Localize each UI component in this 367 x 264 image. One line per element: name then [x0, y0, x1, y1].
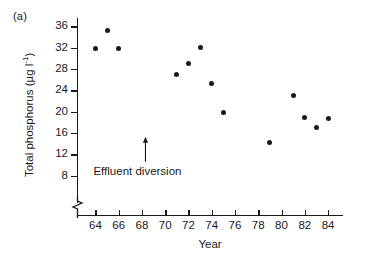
x-axis-tick	[282, 210, 283, 216]
x-axis-tick	[328, 210, 329, 216]
y-axis-tick	[71, 69, 77, 70]
x-axis-tick	[142, 210, 143, 216]
y-axis-tick	[71, 26, 77, 27]
x-axis-tick	[95, 210, 96, 216]
x-axis-title: Year	[78, 238, 342, 250]
x-axis-tick	[305, 210, 306, 216]
y-axis-tick	[71, 112, 77, 113]
y-axis-tick	[71, 90, 77, 91]
y-axis-title: Total phosphorus (µg l-1)	[21, 25, 35, 205]
y-axis-tick	[71, 176, 77, 177]
plot-area	[78, 20, 342, 181]
x-axis-tick	[119, 210, 120, 216]
effluent-diversion-label: Effluent diversion	[93, 165, 181, 177]
y-axis-tick	[71, 48, 77, 49]
axis-break-icon	[70, 196, 86, 218]
panel-label: (a)	[13, 10, 27, 22]
x-axis-tick	[235, 210, 236, 216]
x-axis-tick	[165, 210, 166, 216]
x-axis-line	[77, 215, 343, 216]
y-axis-tick	[71, 154, 77, 155]
effluent-diversion-arrow-icon	[78, 20, 342, 181]
x-axis-tick	[212, 210, 213, 216]
figure-panel-a: (a) 812162024283236 64666870727476788082…	[0, 0, 367, 264]
y-axis-tick	[71, 133, 77, 134]
x-axis-tick-label: 84	[313, 219, 343, 231]
x-axis-tick	[258, 210, 259, 216]
x-axis-tick	[188, 210, 189, 216]
